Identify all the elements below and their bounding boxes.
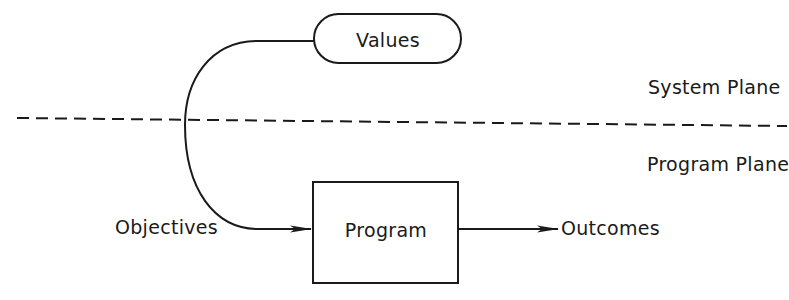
values-node-label: Values [356, 31, 420, 50]
program-plane-label: Program Plane [647, 155, 789, 174]
objectives-label: Objectives [115, 218, 218, 237]
objectives-arrow [185, 41, 314, 229]
plane-divider-dashed-line [17, 118, 787, 126]
system-plane-label: System Plane [648, 78, 781, 97]
outcomes-label: Outcomes [561, 219, 660, 238]
program-node-label: Program [345, 221, 427, 240]
